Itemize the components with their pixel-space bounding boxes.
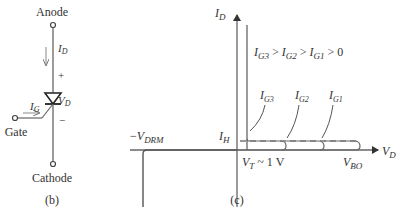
- y-axis-label: ID: [214, 6, 226, 22]
- on-voltage-label: VT ~ 1 V: [242, 155, 285, 171]
- thyristor-circuit: Anode ID + VD − IG Gate Cathode (b): [5, 5, 72, 207]
- circuit-caption: (b): [45, 193, 59, 207]
- gate-current-order-label: IG3 > IG2 > IG1 > 0: [253, 45, 343, 61]
- leader-line-ig3: [250, 105, 265, 131]
- anode-terminal-icon: [51, 23, 56, 28]
- reverse-characteristic-curve: [143, 150, 237, 207]
- anode-label: Anode: [36, 5, 68, 19]
- holding-current-label: IH: [218, 129, 230, 145]
- gate-label: Gate: [5, 125, 28, 139]
- iv-characteristic-chart: ID VD IH IG3 > IG2 > IG1 > 0 IG3 IG2 IG1…: [130, 6, 396, 207]
- leader-line-ig2: [287, 105, 299, 138]
- device-voltage-label: VD: [58, 94, 71, 108]
- curve-ig1: [320, 141, 360, 150]
- curve-label-ig3: IG3: [259, 88, 274, 104]
- breakover-voltage-label: VBO: [343, 155, 363, 171]
- diagram-canvas: Anode ID + VD − IG Gate Cathode (b) ID V…: [0, 0, 413, 217]
- gate-current-label: IG: [29, 100, 40, 114]
- chart-caption: (c): [230, 193, 243, 207]
- anode-current-label: ID: [57, 42, 68, 56]
- neg-drm-voltage-label: −VDRM: [130, 129, 164, 145]
- gate-terminal-icon: [13, 116, 18, 121]
- minus-sign: −: [59, 114, 65, 126]
- curve-label-ig2: IG2: [294, 88, 309, 104]
- curve-ig2: [282, 141, 324, 150]
- cathode-label: Cathode: [32, 171, 72, 185]
- gate-lead: [42, 104, 53, 118]
- x-axis-label: VD: [382, 144, 396, 160]
- cathode-terminal-icon: [51, 162, 56, 167]
- leader-line-ig1: [322, 105, 333, 138]
- curve-label-ig1: IG1: [328, 88, 343, 104]
- plus-sign: +: [58, 69, 64, 81]
